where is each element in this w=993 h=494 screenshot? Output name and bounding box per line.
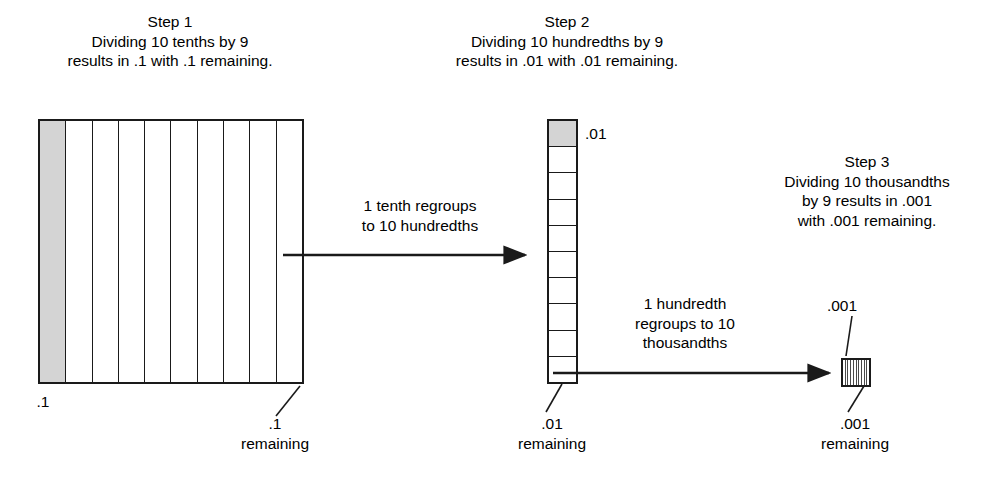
step1-caption-line2: results in .1 with .1 remaining. [30,51,310,71]
step2-quotient-label: .01 [585,124,633,144]
step1-heading: Step 1 [30,12,310,32]
step3-heading: Step 3 [742,152,992,172]
arrow2-label: 1 hundredth regroups to 10 thousandths [590,294,780,353]
step3-remaining-label: .001 remaining [800,414,910,453]
step3-caption-line3: with .001 remaining. [742,211,992,231]
step2-hundredths-model [547,119,578,384]
step1-tenths-model [38,119,304,384]
step2-remaining-leader-line [534,384,570,416]
arrow1-regroup-tenth-to-hundredths [283,244,539,266]
step1-strip [171,121,197,382]
step2-cell [549,226,576,252]
step1-strip [93,121,119,382]
step3-quotient-leader-line [838,316,868,360]
step2-cell [549,173,576,199]
step3-thousandths-model [841,358,871,387]
step2-caption: Step 2 Dividing 10 hundredths by 9 resul… [422,12,712,71]
step3-remaining-leader-line [838,386,874,416]
step3-caption-line2: by 9 results in .001 [742,191,992,211]
step2-cell [549,252,576,278]
step1-remaining-label: .1 remaining [220,414,330,453]
step1-strip-shaded [40,121,66,382]
step1-quotient-label: .1 [28,392,58,412]
step2-cell [549,304,576,330]
step1-strip [250,121,276,382]
step1-strip [224,121,250,382]
step2-caption-line1: Dividing 10 hundredths by 9 [422,32,712,52]
arrow1-label: 1 tenth regroups to 10 hundredths [320,196,520,235]
step2-cell [549,200,576,226]
step1-strip [145,121,171,382]
step1-strip [66,121,92,382]
step3-quotient-label: .001 [812,296,872,316]
step2-heading: Step 2 [422,12,712,32]
step1-caption: Step 1 Dividing 10 tenths by 9 results i… [30,12,310,71]
step1-strip [119,121,145,382]
step2-cell [549,278,576,304]
arrow2-regroup-hundredth-to-thousandths [553,362,843,384]
diagram-canvas: Step 1 Dividing 10 tenths by 9 results i… [0,0,993,494]
step1-caption-line1: Dividing 10 tenths by 9 [30,32,310,52]
step2-cell [549,147,576,173]
step3-caption: Step 3 Dividing 10 thousandths by 9 resu… [742,152,992,230]
step2-caption-line2: results in .01 with .01 remaining. [422,51,712,71]
step2-cell [549,331,576,357]
step1-strip [198,121,224,382]
step3-strip [867,360,869,385]
step3-caption-line1: Dividing 10 thousandths [742,172,992,192]
step2-remaining-label: .01 remaining [497,414,607,453]
step2-cell-shaded [549,121,576,147]
